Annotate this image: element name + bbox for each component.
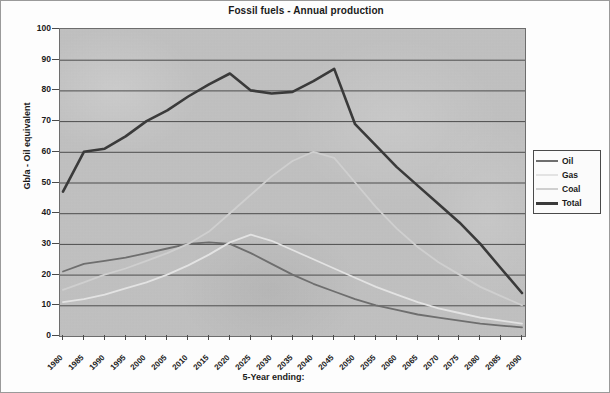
x-tick-mark — [312, 335, 313, 340]
x-tick-label: 2045 — [317, 353, 336, 372]
x-tick-label: 2050 — [338, 353, 357, 372]
x-tick-mark — [187, 335, 188, 340]
x-tick-label: 2065 — [400, 353, 419, 372]
legend-label: Oil — [562, 157, 573, 166]
x-tick-label: 1995 — [108, 353, 127, 372]
x-tick-mark — [417, 335, 418, 340]
x-axis-labels: 1980198519901995200020052010201520202025… — [1, 1, 610, 393]
x-tick-label: 2000 — [129, 353, 148, 372]
x-tick-label: 2015 — [192, 353, 211, 372]
x-tick-mark — [250, 335, 251, 340]
x-tick-mark — [208, 335, 209, 340]
x-tick-label: 2035 — [275, 353, 294, 372]
x-tick-label: 2010 — [171, 353, 190, 372]
legend-label: Coal — [562, 185, 580, 194]
x-tick-label: 1980 — [46, 353, 65, 372]
x-tick-mark — [438, 335, 439, 340]
legend-item-coal[interactable]: Coal — [536, 182, 597, 196]
legend-swatch-coal-icon — [536, 188, 558, 190]
x-tick-mark — [333, 335, 334, 340]
x-tick-mark — [104, 335, 105, 340]
chart-frame: Fossil fuels - Annual production Gb/a - … — [0, 0, 610, 393]
x-tick-mark — [166, 335, 167, 340]
x-tick-mark — [479, 335, 480, 340]
legend-item-oil[interactable]: Oil — [536, 154, 597, 168]
x-tick-label: 2040 — [296, 353, 315, 372]
x-tick-label: 1990 — [87, 353, 106, 372]
legend-label: Total — [562, 199, 582, 208]
x-tick-label: 2075 — [442, 353, 461, 372]
x-tick-label: 2060 — [379, 353, 398, 372]
x-tick-label: 2090 — [505, 353, 524, 372]
legend-swatch-oil-icon — [536, 160, 558, 162]
x-tick-mark — [500, 335, 501, 340]
legend-swatch-gas-icon — [536, 174, 558, 176]
x-tick-label: 2085 — [484, 353, 503, 372]
x-tick-label: 2055 — [359, 353, 378, 372]
x-tick-mark — [375, 335, 376, 340]
x-tick-label: 2020 — [213, 353, 232, 372]
x-tick-label: 2070 — [421, 353, 440, 372]
x-tick-label: 1985 — [66, 353, 85, 372]
x-tick-mark — [292, 335, 293, 340]
legend-label: Gas — [562, 171, 578, 180]
x-tick-label: 2030 — [254, 353, 273, 372]
legend: OilGasCoalTotal — [533, 150, 601, 214]
x-tick-mark — [83, 335, 84, 340]
legend-item-gas[interactable]: Gas — [536, 168, 597, 182]
x-tick-mark — [396, 335, 397, 340]
legend-swatch-total-icon — [536, 202, 558, 205]
x-tick-label: 2025 — [233, 353, 252, 372]
x-tick-mark — [271, 335, 272, 340]
legend-item-total[interactable]: Total — [536, 196, 597, 210]
x-tick-label: 2080 — [463, 353, 482, 372]
x-tick-mark — [145, 335, 146, 340]
x-tick-mark — [125, 335, 126, 340]
x-axis-title: 5-Year ending: — [1, 372, 546, 382]
x-tick-mark — [458, 335, 459, 340]
x-tick-mark — [62, 335, 63, 340]
x-tick-mark — [229, 335, 230, 340]
x-tick-mark — [521, 335, 522, 340]
x-tick-label: 2005 — [150, 353, 169, 372]
x-tick-mark — [354, 335, 355, 340]
